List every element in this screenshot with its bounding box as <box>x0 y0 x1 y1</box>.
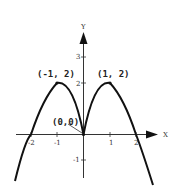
y-axis-arrow-icon <box>80 32 88 44</box>
peak-left-point <box>55 81 58 84</box>
y-axis-label: Y <box>80 23 86 31</box>
x-tick-label: -2 <box>28 139 35 147</box>
function-graph: -2 -1 1 2 3 2 -1 X Y (-1, 2) (1, 2) (0,0… <box>0 0 181 192</box>
x-axis-arrow-icon <box>146 131 158 139</box>
x-tick-label: -1 <box>54 139 61 147</box>
annotation-origin: (0,0) <box>52 117 79 127</box>
origin-point <box>82 133 85 136</box>
y-tick-label: 2 <box>76 80 80 88</box>
x-tick-label: 1 <box>109 139 113 147</box>
annotation-peak-right: (1, 2) <box>97 69 130 79</box>
y-tick-label: -1 <box>73 156 80 164</box>
y-tick-label: 3 <box>76 53 80 61</box>
annotation-peak-left: (-1, 2) <box>37 69 75 79</box>
x-axis-label: X <box>163 131 168 139</box>
peak-right-point <box>108 81 111 84</box>
